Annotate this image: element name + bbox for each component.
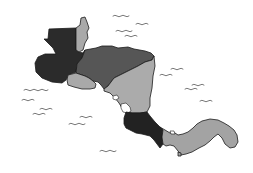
country-costa-rica[interactable] [124, 112, 163, 148]
wave-icon [40, 108, 52, 110]
wave-icon [80, 116, 92, 118]
sea-waves-pacific [22, 89, 116, 152]
island-coiba [178, 152, 181, 156]
wave-icon [200, 100, 212, 102]
wave-icon [125, 35, 137, 37]
wave-icon [100, 150, 116, 152]
wave-icon [24, 89, 48, 91]
wave-icon [192, 84, 204, 86]
wave-icon [185, 88, 197, 90]
wave-icon [171, 68, 183, 70]
central-america-map: Central America [0, 0, 253, 173]
wave-icon [160, 74, 172, 76]
wave-icon [113, 15, 129, 17]
country-panama[interactable] [160, 119, 238, 155]
wave-icon [136, 23, 148, 25]
wave-icon [33, 113, 45, 115]
wave-icon [22, 99, 34, 101]
wave-icon [116, 30, 132, 32]
bay-chiriqui [170, 131, 175, 134]
wave-icon [69, 123, 85, 125]
country-belize[interactable] [76, 17, 89, 52]
